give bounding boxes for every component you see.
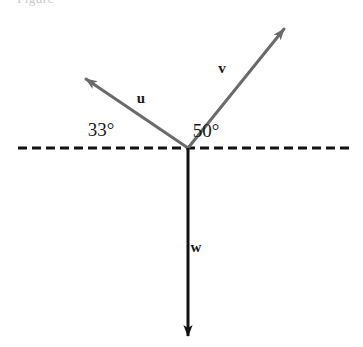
angle-label-33-degrees: 33° xyxy=(88,119,115,140)
vector-label-v: v xyxy=(218,60,226,76)
vector-label-u: u xyxy=(137,90,145,106)
vector-diagram-canvas: u v w 33° 50° xyxy=(0,0,363,347)
angle-label-50-degrees: 50° xyxy=(193,120,220,141)
vector-diagram-figure: Figure u v w 33° 50° xyxy=(0,0,363,347)
vector-label-w: w xyxy=(191,239,202,255)
